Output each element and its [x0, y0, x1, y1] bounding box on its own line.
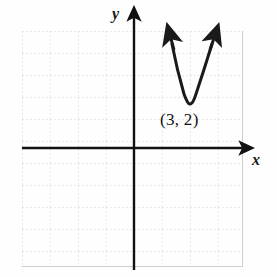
- vertex-point-label: (3, 2): [160, 110, 199, 130]
- y-axis-label: y: [112, 6, 119, 22]
- coordinate-plane: [0, 0, 277, 277]
- grid-border-bottom: [22, 266, 242, 267]
- graph-figure: y x (3, 2): [0, 0, 277, 277]
- x-axis-label: x: [252, 152, 260, 168]
